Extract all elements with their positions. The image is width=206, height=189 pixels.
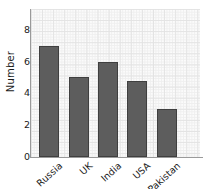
y-tick-label: 2 <box>16 120 30 130</box>
bar <box>69 77 89 157</box>
y-tick-label: 8 <box>16 25 30 35</box>
bar-chart: Number 02468 RussiaUKIndiaUSAPakistan <box>0 0 206 189</box>
bars-layer <box>31 9 200 157</box>
x-axis-line <box>30 157 203 158</box>
y-axis-ticks: 02468 <box>14 0 30 189</box>
x-tick-label: UK <box>77 160 94 177</box>
y-tick-label: 4 <box>16 88 30 98</box>
y-tick-label: 6 <box>16 57 30 67</box>
x-tick-label: India <box>99 160 124 184</box>
y-tick-label: 0 <box>16 152 30 162</box>
x-tick-label: Russia <box>35 160 65 189</box>
bar <box>157 109 177 157</box>
bar <box>98 62 118 157</box>
x-tick-label: Pakistan <box>145 160 182 189</box>
x-tick-label: USA <box>131 160 153 181</box>
bar <box>39 46 59 157</box>
bar <box>127 81 147 157</box>
